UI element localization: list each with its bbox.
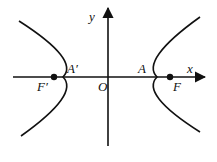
- x-axis-label: x: [186, 61, 193, 76]
- y-axis-label: y: [87, 9, 95, 24]
- right-vertex-label: A: [137, 61, 146, 76]
- right-branch: [153, 17, 200, 132]
- origin-label: O: [98, 79, 108, 94]
- left-vertex-label: A′: [66, 61, 78, 76]
- right-focus-label: F: [172, 79, 182, 94]
- left-focus-point: [51, 74, 57, 80]
- left-focus-label: F′: [36, 79, 48, 94]
- hyperbola-diagram: y x O A′ A F′ F: [0, 0, 217, 162]
